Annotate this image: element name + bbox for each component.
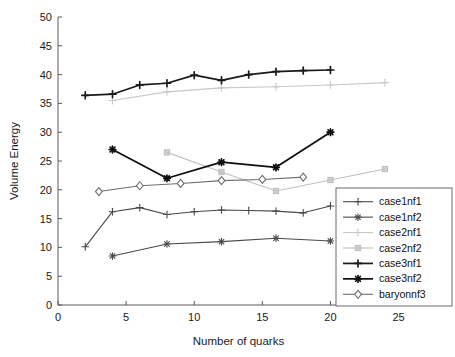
y-tick-label: 35: [40, 97, 52, 109]
y-tick-label: 20: [40, 184, 52, 196]
legend-label-case3nf2: case3nf2: [379, 272, 422, 284]
series-line-case2nf1: [112, 83, 384, 101]
x-tick-label: 5: [123, 311, 129, 323]
data-point-plus-marker: [245, 71, 252, 78]
data-point-plus-marker: [164, 88, 171, 95]
data-point-plus-marker: [82, 92, 89, 99]
data-point-square-marker: [328, 177, 333, 182]
data-point-square-marker: [355, 245, 360, 250]
data-point-star-marker: [273, 164, 280, 171]
data-point-plus-marker: [218, 77, 225, 84]
series-case2nf1: [109, 79, 388, 104]
data-point-plus-marker: [191, 72, 198, 79]
data-point-plus-marker: [300, 209, 307, 216]
data-point-plus-marker: [273, 83, 280, 90]
y-axis-title: Volume Energy: [8, 122, 20, 200]
y-tick-label: 25: [40, 155, 52, 167]
y-tick-label: 40: [40, 69, 52, 81]
chart-figure: 0510152025 05101520253035404550 Number o…: [0, 0, 455, 357]
series-line-case2nf2: [167, 152, 385, 191]
data-point-star-marker: [327, 129, 334, 136]
legend-label-baryonnf3: baryonnf3: [379, 288, 426, 300]
data-point-plus-marker: [300, 67, 307, 74]
data-point-star-marker: [355, 276, 362, 283]
data-point-star-marker: [164, 241, 171, 248]
data-point-plus-marker: [218, 84, 225, 91]
x-tick-labels: 0510152025: [55, 311, 405, 323]
data-point-star-marker: [218, 159, 225, 166]
chart-legend: case1nf1case1nf2case2nf1case2nf2case3nf1…: [336, 188, 452, 306]
x-tick-label: 25: [392, 311, 404, 323]
data-point-square-marker: [164, 150, 169, 155]
data-point-plus-marker: [164, 80, 171, 87]
data-point-plus-marker: [273, 208, 280, 215]
data-point-plus-marker: [327, 203, 334, 210]
y-tick-label: 45: [40, 40, 52, 52]
data-point-plus-marker: [191, 208, 198, 215]
series-line-case1nf1: [85, 206, 330, 247]
y-tick-labels: 05101520253035404550: [40, 11, 52, 311]
y-tick-label: 30: [40, 126, 52, 138]
data-point-diamond-marker: [300, 173, 307, 181]
legend-label-case2nf2: case2nf2: [379, 242, 422, 254]
data-point-star-marker: [355, 214, 362, 221]
data-point-star-marker: [109, 253, 116, 260]
data-point-star-marker: [109, 146, 116, 153]
data-point-star-marker: [327, 238, 334, 245]
x-tick-label: 20: [324, 311, 336, 323]
data-point-diamond-marker: [177, 179, 184, 187]
data-point-plus-marker: [327, 67, 334, 74]
data-point-diamond-marker: [218, 177, 225, 185]
data-point-plus-marker: [245, 207, 252, 214]
data-point-star-marker: [273, 235, 280, 242]
chart-canvas: 0510152025 05101520253035404550 Number o…: [0, 0, 455, 357]
series-case1nf2: [109, 235, 334, 259]
data-point-plus-marker: [273, 68, 280, 75]
series-case1nf1: [82, 203, 334, 251]
series-case2nf2: [164, 150, 387, 194]
x-tick-label: 0: [55, 311, 61, 323]
series-line-case3nf1: [85, 70, 330, 95]
series-case3nf1: [82, 67, 334, 99]
data-point-square-marker: [273, 188, 278, 193]
data-point-plus-marker: [218, 207, 225, 214]
data-point-plus-marker: [136, 82, 143, 89]
y-tick-label: 15: [40, 213, 52, 225]
data-point-star-marker: [218, 238, 225, 245]
data-point-plus-marker: [164, 211, 171, 218]
data-point-plus-marker: [109, 91, 116, 98]
x-tick-label: 10: [188, 311, 200, 323]
data-point-square-marker: [219, 169, 224, 174]
legend-label-case1nf1: case1nf1: [379, 195, 422, 207]
data-point-diamond-marker: [136, 182, 143, 190]
y-tick-label: 0: [46, 299, 52, 311]
data-point-star-marker: [164, 175, 171, 182]
data-point-plus-marker: [382, 79, 389, 86]
legend-label-case3nf1: case3nf1: [379, 257, 422, 269]
x-tick-label: 15: [256, 311, 268, 323]
data-point-plus-marker: [327, 82, 334, 89]
data-point-diamond-marker: [259, 175, 266, 183]
legend-label-case2nf1: case2nf1: [379, 226, 422, 238]
y-tick-label: 10: [40, 241, 52, 253]
y-tick-label: 50: [40, 11, 52, 23]
y-tick-label: 5: [46, 270, 52, 282]
data-point-plus-marker: [136, 204, 143, 211]
x-axis-title: Number of quarks: [193, 335, 285, 347]
data-point-square-marker: [382, 166, 387, 171]
data-point-diamond-marker: [95, 188, 102, 196]
legend-label-case1nf2: case1nf2: [379, 211, 422, 223]
